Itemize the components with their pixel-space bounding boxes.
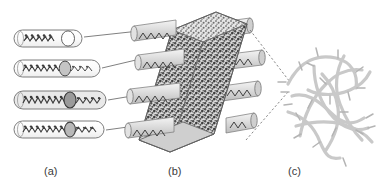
capsule-4-junction-circle bbox=[65, 122, 76, 137]
panel-label-c: (c) bbox=[288, 165, 301, 177]
figure-canvas: (a) (b) (c) bbox=[0, 0, 382, 193]
capsule-4 bbox=[14, 121, 104, 138]
capsule-1 bbox=[14, 30, 82, 47]
panel-a-group bbox=[14, 30, 106, 138]
cylinder-right-4 bbox=[226, 113, 257, 133]
panel-b-group bbox=[125, 12, 265, 152]
capsule-1-junction-empty-circle bbox=[62, 31, 75, 46]
capsule-2-junction-circle bbox=[59, 61, 71, 76]
capsule-2 bbox=[14, 60, 100, 77]
panel-label-a: (a) bbox=[44, 165, 57, 177]
fiber-network bbox=[288, 56, 372, 158]
capsule-3-junction-circle bbox=[64, 92, 76, 108]
panel-c-group bbox=[278, 48, 375, 166]
panel-label-b: (b) bbox=[168, 165, 181, 177]
capsule-3 bbox=[14, 91, 106, 109]
